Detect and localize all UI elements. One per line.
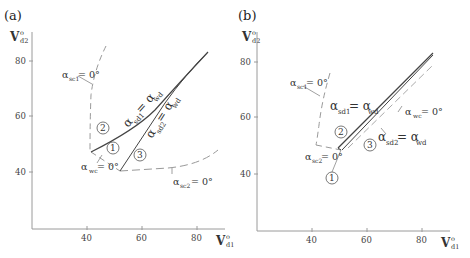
- svg-text:= 0°: = 0°: [421, 106, 443, 117]
- panel-b-label-sc2: α sc2 = 0°: [305, 151, 343, 164]
- svg-text:3: 3: [367, 140, 373, 150]
- svg-text:2: 2: [100, 123, 106, 133]
- panel-a-y-tick-label: 60: [15, 111, 26, 121]
- svg-text:d1: d1: [226, 241, 234, 249]
- panel-a-label-sc1: α sc1 = 0°: [62, 69, 100, 82]
- svg-text:o: o: [252, 29, 256, 37]
- panel-b-y-tick-label: 80: [240, 57, 251, 67]
- panel-b: (b) V o d2 80 60 40 40 60 80 V o d1: [238, 8, 459, 251]
- svg-text:o: o: [451, 235, 455, 243]
- svg-text:= 0°: = 0°: [321, 151, 343, 162]
- svg-text:1: 1: [110, 143, 116, 153]
- panel-a-region-2: 2: [97, 122, 109, 134]
- panel-a-x-tick-label: 40: [81, 233, 92, 243]
- svg-text:α: α: [173, 176, 180, 187]
- panel-b-wc-leader: [398, 106, 402, 112]
- panel-b-label-sc1: α sc1 = 0°: [290, 77, 328, 90]
- panel-a-y-axis-title: V o d2: [9, 29, 28, 45]
- panel-b-region-1: 1: [326, 172, 338, 184]
- panel-b-x-tick-label: 80: [416, 235, 427, 245]
- svg-text:wd: wd: [170, 96, 183, 110]
- svg-text:α: α: [62, 69, 69, 80]
- panel-a-y-tick-label: 80: [15, 56, 26, 66]
- velocity-diagram-figure: (a) V o d2 80 60 40 40 60 80 V o d1: [0, 0, 470, 258]
- svg-text:= α: = α: [133, 90, 158, 116]
- svg-text:α: α: [81, 161, 88, 172]
- panel-b-label: (b): [238, 8, 256, 23]
- svg-text:o: o: [226, 233, 230, 241]
- svg-text:V: V: [9, 30, 20, 44]
- panel-b-x-tick-label: 60: [361, 235, 372, 245]
- svg-text:V: V: [241, 30, 252, 44]
- panel-b-label-sd1-wd: α sd1 = α wd: [330, 99, 379, 116]
- svg-text:α: α: [405, 106, 412, 117]
- svg-text:3: 3: [137, 150, 143, 160]
- panel-a-x-tick-label: 80: [191, 233, 202, 243]
- panel-b-y-tick-label: 40: [240, 169, 251, 179]
- svg-text:= 0°: = 0°: [97, 161, 119, 172]
- panel-b-x-axis-title: V o d1: [440, 235, 459, 251]
- svg-text:V: V: [440, 236, 451, 250]
- svg-text:α: α: [305, 151, 312, 162]
- panel-b-label-sd2-wd: α sd2 = α wd: [378, 130, 427, 147]
- svg-text:= 0°: = 0°: [306, 77, 328, 88]
- panel-a-label-wc: α wc = 0°: [81, 161, 119, 174]
- panel-b-x-tick-label: 40: [306, 235, 317, 245]
- svg-text:α: α: [330, 99, 338, 113]
- svg-text:2: 2: [338, 127, 344, 137]
- svg-text:1: 1: [329, 173, 335, 183]
- svg-text:o: o: [20, 29, 24, 37]
- panel-a-x-axis-title: V o d1: [215, 233, 234, 249]
- panel-a-label: (a): [4, 8, 22, 23]
- panel-a-region-1: 1: [107, 142, 119, 154]
- svg-text:= 0°: = 0°: [78, 69, 100, 80]
- panel-b-region-2: 2: [335, 126, 347, 138]
- svg-text:d2: d2: [20, 37, 28, 45]
- svg-text:d2: d2: [252, 37, 260, 45]
- panel-a-label-sc2: α sc2 = 0°: [173, 176, 213, 189]
- svg-text:= 0°: = 0°: [191, 176, 213, 187]
- panel-b-label-wc: α wc = 0°: [405, 106, 443, 119]
- panel-a: (a) V o d2 80 60 40 40 60 80 V o d1: [4, 8, 234, 249]
- svg-text:α: α: [290, 77, 297, 88]
- svg-text:sc2: sc2: [180, 182, 190, 189]
- svg-text:wd: wd: [416, 139, 427, 147]
- svg-text:wd: wd: [368, 108, 379, 116]
- panel-a-x-tick-label: 60: [136, 233, 147, 243]
- panel-a-y-tick-label: 40: [15, 167, 26, 177]
- panel-a-sc1-boundary: [90, 46, 106, 152]
- panel-b-sc2-boundary: [316, 145, 341, 150]
- svg-text:α: α: [378, 130, 386, 144]
- svg-text:d1: d1: [451, 243, 459, 251]
- panel-b-y-tick-label: 60: [240, 112, 251, 122]
- panel-a-region-3: 3: [134, 149, 146, 161]
- svg-text:V: V: [215, 234, 226, 248]
- panel-b-region-3: 3: [364, 139, 376, 151]
- diagram-canvas: (a) V o d2 80 60 40 40 60 80 V o d1: [0, 0, 470, 258]
